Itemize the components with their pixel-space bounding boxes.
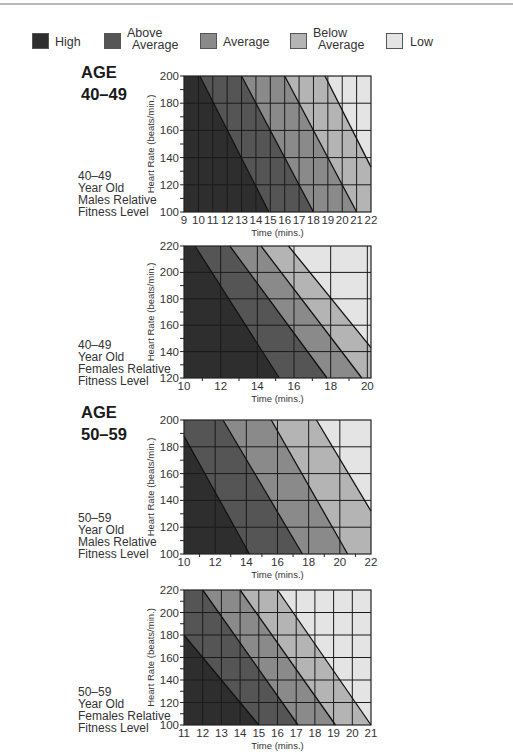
x-tick-label: 18 (307, 214, 320, 226)
x-tick-label: 14 (234, 727, 247, 739)
x-axis-title: Time (mins.) (251, 569, 303, 580)
y-tick-label: 140 (160, 346, 179, 358)
x-tick-label: 13 (215, 727, 228, 739)
legend-label-low: Low (410, 36, 433, 48)
x-tick-label: 20 (333, 556, 346, 568)
x-tick-label: 18 (324, 380, 337, 392)
x-axis-title: Time (mins.) (251, 393, 303, 404)
x-tick-label: 19 (321, 214, 334, 226)
x-tick-label: 16 (271, 727, 284, 739)
x-tick-label: 11 (178, 727, 190, 739)
x-axis-title: Time (mins.) (251, 740, 303, 751)
x-tick-label: 17 (290, 727, 303, 739)
x-tick-label: 15 (264, 214, 277, 226)
x-tick-label: 12 (196, 727, 209, 739)
x-tick-label: 17 (293, 214, 306, 226)
y-tick-label: 120 (160, 521, 179, 533)
x-tick-label: 20 (336, 214, 349, 226)
legend-swatch-high (32, 33, 49, 49)
y-tick-label: 200 (160, 266, 179, 278)
legend-label-high: High (55, 36, 81, 48)
x-tick-label: 14 (251, 380, 264, 392)
x-tick-label: 12 (214, 380, 227, 392)
y-tick-label: 160 (160, 124, 179, 136)
y-tick-label: 120 (160, 372, 179, 384)
y-tick-label: 140 (160, 674, 179, 686)
chart-plot: 120140160180200220101214161820Time (mins… (184, 246, 371, 378)
y-tick-label: 160 (160, 652, 179, 664)
x-tick-label: 14 (250, 214, 263, 226)
y-tick-label: 220 (160, 584, 179, 596)
x-tick-label: 16 (288, 380, 301, 392)
x-tick-label: 10 (178, 380, 191, 392)
y-axis-title: Heart Rate (beats/min.) (145, 95, 156, 194)
y-tick-label: 200 (160, 70, 179, 82)
x-tick-label: 22 (365, 214, 378, 226)
y-tick-label: 160 (160, 468, 179, 480)
legend-swatch-average (200, 33, 217, 49)
x-tick-label: 12 (221, 214, 234, 226)
x-tick-label: 13 (235, 214, 248, 226)
y-tick-label: 200 (160, 414, 179, 426)
chart-plot: 10012014016018020010121416182022Time (mi… (184, 420, 371, 554)
y-tick-label: 100 (160, 548, 179, 560)
section-age-label: AGE (81, 62, 117, 82)
section-age-label: AGE (81, 402, 117, 422)
x-tick-label: 22 (365, 556, 378, 568)
section-age-range: 50–59 (81, 424, 127, 444)
legend-swatch-above-average (104, 33, 121, 49)
y-tick-label: 140 (160, 494, 179, 506)
x-tick-label: 10 (192, 214, 205, 226)
y-tick-label: 160 (160, 319, 179, 331)
y-axis-title: Heart Rate (beats/min.) (145, 608, 156, 707)
legend-label-average: Average (223, 36, 269, 48)
x-tick-label: 16 (271, 556, 284, 568)
x-tick-label: 14 (240, 556, 253, 568)
x-tick-label: 21 (365, 727, 378, 739)
y-tick-label: 140 (160, 152, 179, 164)
x-tick-label: 10 (178, 556, 191, 568)
legend-label-below-average: BelowAverage (313, 27, 364, 51)
y-axis-title: Heart Rate (beats/min.) (145, 438, 156, 537)
x-tick-label: 12 (209, 556, 222, 568)
x-tick-label: 20 (346, 727, 359, 739)
x-tick-label: 20 (361, 380, 374, 392)
x-axis-title: Time (mins.) (251, 227, 303, 238)
y-tick-label: 180 (160, 441, 179, 453)
y-axis-title: Heart Rate (beats/min.) (145, 263, 156, 362)
x-tick-label: 18 (302, 556, 315, 568)
x-tick-label: 19 (327, 727, 340, 739)
y-tick-label: 120 (160, 697, 179, 709)
legend-swatch-low (386, 33, 403, 49)
top-rule (0, 3, 513, 5)
x-tick-label: 21 (350, 214, 363, 226)
legend-swatch-below-average (290, 33, 307, 49)
y-tick-label: 180 (160, 97, 179, 109)
y-tick-label: 100 (160, 206, 179, 218)
chart-plot: 1001201401601802009101112131415161718192… (184, 76, 371, 212)
y-tick-label: 220 (160, 240, 179, 252)
x-tick-label: 15 (252, 727, 265, 739)
x-tick-label: 9 (181, 214, 187, 226)
y-tick-label: 100 (160, 719, 179, 731)
y-tick-label: 120 (160, 179, 179, 191)
y-tick-label: 180 (160, 629, 179, 641)
legend-label-above-average: AboveAverage (127, 27, 178, 51)
y-tick-label: 180 (160, 293, 179, 305)
y-tick-label: 200 (160, 607, 179, 619)
x-tick-label: 16 (278, 214, 291, 226)
section-age-range: 40–49 (81, 84, 127, 104)
chart-plot: 1001201401601802002201112131415161718192… (184, 590, 371, 725)
x-tick-label: 11 (207, 214, 219, 226)
x-tick-label: 18 (309, 727, 322, 739)
